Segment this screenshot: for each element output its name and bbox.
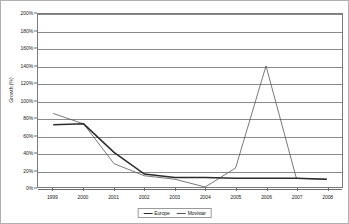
series-layer — [38, 14, 342, 187]
x-tick-label-2001: 2001 — [108, 194, 119, 200]
x-tick-mark-2005 — [236, 188, 237, 191]
x-axis: 1999200020012002200320042005200620072008 — [37, 188, 343, 204]
x-tick-mark-2004 — [205, 188, 206, 191]
legend-label-europe: Europe — [154, 210, 170, 216]
x-tick-mark-2006 — [267, 188, 268, 191]
y-tick-label-0: 0% — [26, 185, 33, 191]
x-tick-mark-2002 — [144, 188, 145, 191]
x-tick-label-2004: 2004 — [200, 194, 211, 200]
legend-entry-movistar: Movistar — [177, 210, 206, 216]
x-tick-label-2008: 2008 — [322, 194, 333, 200]
x-tick-label-2002: 2002 — [139, 194, 150, 200]
series-line-movistar — [53, 66, 327, 187]
y-tick-label-140: 140% — [21, 63, 33, 69]
y-tick-label-200: 200% — [21, 10, 33, 16]
x-tick-mark-2008 — [328, 188, 329, 191]
legend-swatch-movistar-icon — [177, 213, 186, 214]
x-tick-label-2005: 2005 — [231, 194, 242, 200]
legend-label-movistar: Movistar — [188, 210, 206, 216]
plot-area — [37, 13, 343, 188]
x-tick-label-2006: 2006 — [261, 194, 272, 200]
legend-swatch-europe-icon — [143, 213, 152, 214]
y-axis: 0%20%40%60%80%100%120%140%160%180%200% — [1, 13, 37, 188]
x-tick-mark-2001 — [114, 188, 115, 191]
x-tick-label-2007: 2007 — [292, 194, 303, 200]
y-tick-label-100: 100% — [21, 98, 33, 104]
growth-line-chart: 0%20%40%60%80%100%120%140%160%180%200% G… — [0, 0, 349, 224]
y-tick-label-40: 40% — [23, 150, 33, 156]
y-tick-label-20: 20% — [23, 168, 33, 174]
x-tick-mark-2000 — [83, 188, 84, 191]
y-tick-label-120: 120% — [21, 80, 33, 86]
y-axis-title: Growth (%) — [8, 62, 14, 118]
x-tick-mark-2007 — [297, 188, 298, 191]
x-tick-mark-2003 — [175, 188, 176, 191]
y-tick-label-180: 180% — [21, 28, 33, 34]
legend: Europe Movistar — [137, 208, 212, 218]
x-tick-label-1999: 1999 — [47, 194, 58, 200]
legend-entry-europe: Europe — [143, 210, 170, 216]
x-tick-mark-1999 — [52, 188, 53, 191]
x-tick-label-2003: 2003 — [169, 194, 180, 200]
y-tick-label-80: 80% — [23, 115, 33, 121]
y-tick-label-160: 160% — [21, 45, 33, 51]
y-tick-label-60: 60% — [23, 133, 33, 139]
x-tick-label-2000: 2000 — [78, 194, 89, 200]
series-line-europe — [53, 124, 327, 179]
